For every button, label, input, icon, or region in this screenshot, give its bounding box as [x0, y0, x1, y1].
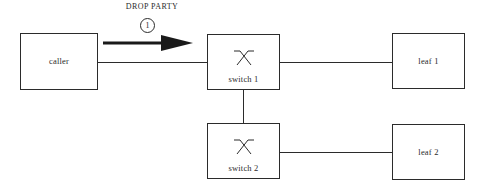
link-caller-switch1 [98, 62, 208, 63]
node-leaf1-label: leaf 1 [418, 57, 438, 66]
flow-arrow-icon [103, 34, 195, 56]
node-caller-label: caller [49, 57, 69, 66]
diagram-canvas: caller switch 1 leaf 1 switch 2 leaf 2 [0, 0, 488, 192]
node-leaf2[interactable]: leaf 2 [392, 124, 465, 180]
step-number-badge: 1 [140, 18, 155, 33]
node-leaf1[interactable]: leaf 1 [392, 33, 465, 89]
node-switch2-label: switch 2 [228, 164, 258, 173]
node-switch2[interactable]: switch 2 [207, 123, 280, 179]
switch-crossbar-icon [231, 137, 257, 161]
node-caller[interactable]: caller [20, 33, 98, 90]
node-leaf2-label: leaf 2 [418, 148, 438, 157]
flow-label: DROP PARTY [104, 2, 200, 11]
node-switch1-label: switch 1 [228, 75, 258, 84]
node-switch1[interactable]: switch 1 [207, 34, 280, 90]
link-switch1-switch2 [243, 90, 244, 123]
link-switch2-leaf2 [280, 152, 392, 153]
link-switch1-leaf1 [280, 62, 392, 63]
switch-crossbar-icon [231, 48, 257, 72]
